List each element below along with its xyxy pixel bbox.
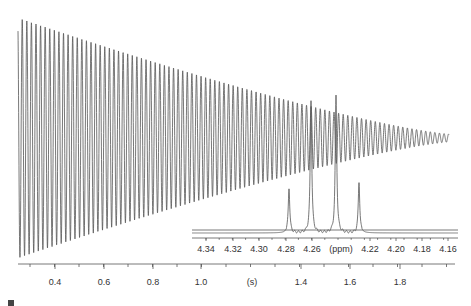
tick-label: 4.20 — [387, 244, 405, 254]
axis-unit-label: (s) — [247, 277, 258, 287]
corner-mark — [8, 300, 14, 306]
nmr-figure: 4.344.324.304.284.26(ppm)4.224.204.184.1… — [0, 0, 471, 306]
tick-label: 0.4 — [49, 277, 62, 287]
tick-label: 4.32 — [224, 244, 242, 254]
tick-label: 4.34 — [197, 244, 215, 254]
tick-label: 4.22 — [361, 244, 379, 254]
tick-label: 0.8 — [147, 277, 160, 287]
main-x-axis: 0.40.60.81.0(s)1.41.61.8 — [18, 264, 455, 287]
tick-label: 4.28 — [277, 244, 295, 254]
fid-trace — [18, 20, 449, 258]
axis-unit-label: (ppm) — [329, 244, 353, 254]
tick-label: 4.16 — [439, 244, 457, 254]
tick-label: 1.4 — [295, 277, 308, 287]
tick-label: 1.8 — [394, 277, 407, 287]
main-x-ticks: 0.40.60.81.0(s)1.41.61.8 — [30, 264, 447, 287]
tick-label: 4.26 — [303, 244, 321, 254]
inset-x-ticks: 4.344.324.304.284.26(ppm)4.224.204.184.1… — [197, 238, 457, 254]
tick-label: 4.18 — [413, 244, 431, 254]
tick-label: 0.6 — [98, 277, 111, 287]
tick-label: 1.6 — [344, 277, 357, 287]
tick-label: 1.0 — [195, 277, 208, 287]
tick-label: 4.30 — [250, 244, 268, 254]
